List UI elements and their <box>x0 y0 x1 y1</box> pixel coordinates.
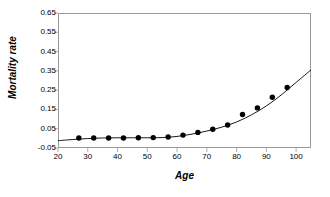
x-axis-tick-labels: 2030405060708090100 <box>0 153 330 165</box>
y-tick-label: 0.55 <box>28 28 56 36</box>
x-tick-label: 50 <box>132 153 162 161</box>
y-tick-label: -0.05 <box>28 144 56 152</box>
x-tick-label: 20 <box>43 153 73 161</box>
data-point <box>121 135 126 140</box>
x-tick-label: 100 <box>281 153 311 161</box>
data-point <box>284 85 289 90</box>
x-tick-label: 90 <box>251 153 281 161</box>
data-point <box>225 122 230 127</box>
y-tick-label: 0.45 <box>28 48 56 56</box>
data-point <box>76 135 81 140</box>
fitted-curve <box>58 70 311 141</box>
chart-figure: -0.050.050.150.250.350.450.550.65 203040… <box>0 0 330 197</box>
x-axis-title: Age <box>58 170 311 181</box>
data-point <box>240 112 245 117</box>
data-point <box>106 135 111 140</box>
y-tick-label: 0.05 <box>28 125 56 133</box>
data-point <box>91 135 96 140</box>
y-tick-label: 0.25 <box>28 86 56 94</box>
data-point <box>136 135 141 140</box>
y-tick-label: 0.65 <box>28 9 56 17</box>
data-point <box>165 134 170 139</box>
x-tick-label: 70 <box>192 153 222 161</box>
data-point <box>255 105 260 110</box>
y-tick-label: 0.35 <box>28 67 56 75</box>
data-point <box>151 135 156 140</box>
x-tick-label: 30 <box>73 153 103 161</box>
data-point <box>270 95 275 100</box>
y-tick-label: 0.15 <box>28 105 56 113</box>
data-point <box>210 127 215 132</box>
y-axis-title: Mortality rate <box>7 28 18 108</box>
y-axis-tick-labels: -0.050.050.150.250.350.450.550.65 <box>25 0 56 197</box>
data-point-markers <box>76 85 290 141</box>
x-tick-label: 60 <box>162 153 192 161</box>
x-tick-label: 80 <box>222 153 252 161</box>
data-point <box>180 132 185 137</box>
x-tick-label: 40 <box>103 153 133 161</box>
data-point <box>195 130 200 135</box>
